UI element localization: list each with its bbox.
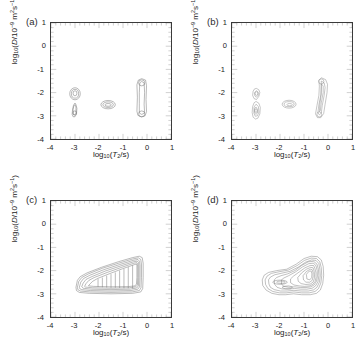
panel-a-ytick-m4: -4: [30, 135, 44, 144]
panel-b-ytick-m4: -4: [211, 135, 225, 144]
panel-b-ytick-0: 0: [213, 41, 227, 50]
panel-c-ytick-m4: -4: [30, 313, 44, 322]
panel-b-ytick-m2: -2: [211, 88, 225, 97]
panel-c-ytick-m2: -2: [30, 266, 44, 275]
panel-b-ytick-m3: -3: [211, 112, 225, 121]
panel-c-ytick-0: 0: [32, 219, 46, 228]
panel-c-ytick-m3: -3: [30, 290, 44, 299]
panel-d-ytick-0: 0: [213, 219, 227, 228]
panel-a-plot-area: [50, 22, 172, 140]
panel-b-contours: [232, 23, 352, 139]
panel-a-ytick-m3: -3: [30, 112, 44, 121]
panel-b-x-axis-label: log10(T2/s): [231, 150, 353, 159]
panel-a-ytick-0: 0: [32, 41, 46, 50]
panel-c-y-axis-label: log10(D/10−9 m2s−1): [9, 149, 18, 269]
panel-d-ytick-m3: -3: [211, 290, 225, 299]
axis-ticks: [51, 201, 171, 317]
axis-ticks: [232, 201, 352, 317]
panel-d-y-axis-label: log10(D/10−9 m2s−1): [190, 149, 199, 269]
panel-a-contours: [51, 23, 171, 139]
panel-c-ytick-m1: -1: [30, 243, 44, 252]
axis-ticks: [232, 23, 352, 139]
panel-b: (b) log10(D/10−9 m2s−1) 1 0 -1 -2 -3 -4: [181, 0, 362, 178]
axis-ticks: [51, 23, 171, 139]
panel-b-plot-area: [231, 22, 353, 140]
panel-b-y-axis-label: log10(D/10−9 m2s−1): [190, 0, 199, 91]
panel-c: (c) log10(D/10−9 m2s−1) 1 0 -1 -2 -3 -4: [0, 178, 181, 356]
panel-d-ytick-m2: -2: [211, 266, 225, 275]
panel-a-x-axis-label: log10(T2/s): [50, 150, 172, 159]
panel-c-ytick-1: 1: [32, 196, 46, 205]
figure-root: (a) log10(D/10−9 m2s−1) 1 0 -1 -2 -3 -4: [0, 0, 362, 357]
panel-d-contours: [232, 201, 352, 317]
panel-d-ytick-m1: -1: [211, 243, 225, 252]
panel-d-x-axis-label: log10(T2/s): [231, 328, 353, 337]
panel-b-ytick-m1: -1: [211, 65, 225, 74]
panel-a-ytick-1: 1: [32, 18, 46, 27]
panel-a-y-axis-label: log10(D/10−9 m2s−1): [9, 0, 18, 91]
panel-a-ytick-m2: -2: [30, 88, 44, 97]
panel-c-contours: [51, 201, 171, 317]
panel-a-ytick-m1: -1: [30, 65, 44, 74]
panel-b-ytick-1: 1: [213, 18, 227, 27]
panel-c-x-axis-label: log10(T2/s): [50, 328, 172, 337]
panel-a: (a) log10(D/10−9 m2s−1) 1 0 -1 -2 -3 -4: [0, 0, 181, 178]
panel-d: (d) log10(D/10−9 m2s−1) 1 0 -1 -2 -3 -4: [181, 178, 362, 356]
panel-d-plot-area: [231, 200, 353, 318]
panel-c-plot-area: [50, 200, 172, 318]
panel-d-ytick-m4: -4: [211, 313, 225, 322]
panel-d-ytick-1: 1: [213, 196, 227, 205]
